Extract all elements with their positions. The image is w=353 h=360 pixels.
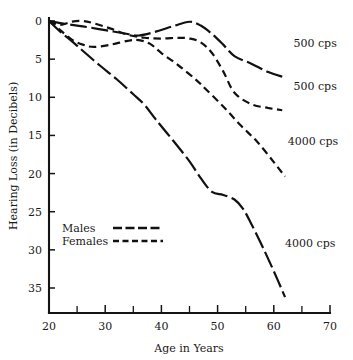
chart-canvas: 05101520253035 Hearing Loss (in Decibels…: [0, 0, 353, 360]
series-end-label: 500 cps: [293, 37, 337, 50]
series-end-labels: 500 cps500 cps4000 cps4000 cps: [285, 37, 339, 250]
y-tick-label: 30: [28, 244, 42, 257]
series-end-label: 4000 cps: [285, 237, 336, 250]
y-tick-label: 35: [28, 282, 42, 295]
series-line-females-500-cps: [49, 21, 282, 110]
x-tick-label: 70: [323, 320, 337, 333]
x-axis-tick-labels: 203040506070: [42, 320, 337, 333]
series-line-males-500-cps: [49, 21, 282, 77]
y-tick-label: 25: [28, 206, 42, 219]
x-axis-ticks: [49, 305, 330, 313]
x-tick-label: 50: [211, 320, 225, 333]
x-tick-label: 30: [98, 320, 112, 333]
y-tick-label: 15: [28, 129, 42, 142]
x-tick-label: 60: [267, 320, 281, 333]
legend-label-males: Males: [62, 222, 96, 235]
x-tick-label: 40: [154, 320, 168, 333]
x-tick-label: 20: [42, 320, 56, 333]
y-axis-tick-labels: 05101520253035: [28, 15, 42, 295]
series-end-label: 4000 cps: [288, 135, 339, 148]
series-layer: [49, 21, 285, 297]
series-line-females-4000-cps: [49, 21, 285, 177]
x-axis: 203040506070 Age in Years: [42, 305, 337, 355]
legend-label-females: Females: [62, 235, 109, 248]
y-tick-label: 0: [35, 15, 42, 28]
x-axis-title: Age in Years: [153, 342, 224, 355]
legend: MalesFemales: [62, 222, 163, 248]
y-tick-label: 5: [35, 53, 42, 66]
y-axis: 05101520253035 Hearing Loss (in Decibels…: [7, 15, 55, 313]
y-tick-label: 20: [28, 168, 42, 181]
hearing-loss-chart: 05101520253035 Hearing Loss (in Decibels…: [0, 0, 353, 360]
y-axis-title: Hearing Loss (in Decibels): [7, 82, 20, 230]
y-tick-label: 10: [28, 91, 42, 104]
series-end-label: 500 cps: [293, 80, 337, 93]
